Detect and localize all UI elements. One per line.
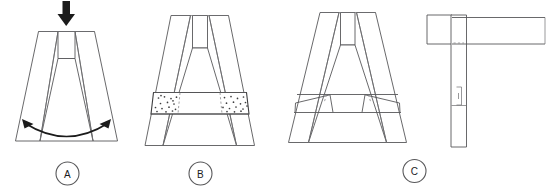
brace-right-angle-lower	[400, 103, 401, 112]
side-head-block	[427, 15, 452, 44]
panel-b: B	[145, 16, 255, 186]
downward-load-arrow-icon	[58, 1, 76, 26]
panel-c-apex-block	[341, 13, 356, 46]
callout-b[interactable]: B	[189, 162, 212, 185]
panel-b-apex-block	[193, 16, 208, 49]
callout-a[interactable]: A	[56, 162, 79, 185]
callout-b-label: B	[197, 169, 204, 180]
diagram-page: A	[0, 0, 552, 195]
diagram-canvas: A	[0, 0, 552, 195]
side-post	[451, 15, 467, 147]
panel-a-apex-block	[58, 32, 75, 59]
panel-side-elevation	[427, 15, 545, 147]
panel-a: A	[16, 1, 118, 185]
callout-a-label: A	[64, 169, 71, 180]
callout-c[interactable]: C	[403, 160, 426, 183]
brace-left-angle-lower	[295, 103, 296, 112]
panel-c: C	[289, 13, 427, 183]
stippled-tie-band	[151, 93, 249, 115]
callout-c-label: C	[411, 166, 418, 177]
